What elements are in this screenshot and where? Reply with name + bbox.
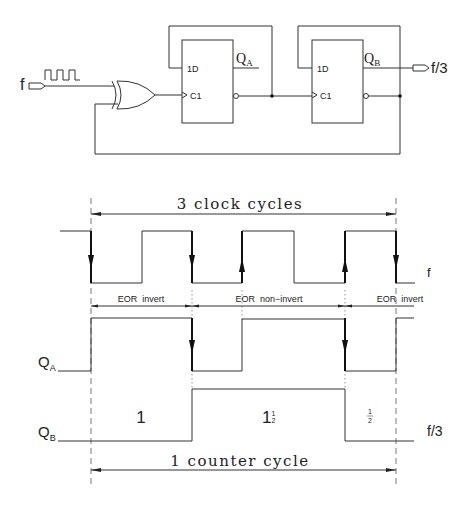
flipflop-b: 1D C1 QB [312, 40, 380, 123]
rising-edge-arrow-icon [239, 258, 245, 272]
clock-waveform-icon [45, 70, 80, 80]
inverted-output-icon [364, 94, 369, 99]
signal-qa: QA [38, 318, 414, 373]
circuit-schematic: f 1D C1 QA 1D [20, 26, 448, 154]
svg-text:112: 112 [262, 408, 275, 427]
inverted-output-icon [234, 94, 239, 99]
falling-edge-arrow-icon [342, 340, 348, 354]
input-port-icon [29, 83, 45, 89]
signal-qb: QB f/3 1 112 1 2 [38, 389, 443, 443]
three-clock-cycles-label: 3 clock cycles [177, 195, 303, 213]
svg-text:2: 2 [368, 417, 372, 424]
input-label: f [20, 76, 25, 93]
eor-phases: EOR invert EOR non−invert EOR invert [91, 294, 424, 308]
svg-text:1: 1 [136, 408, 145, 427]
signal-f: f [60, 231, 431, 283]
svg-text:QB: QB [38, 423, 56, 443]
output-label: f/3 [431, 59, 448, 76]
timing-diagram: 3 clock cycles f EOR invert EOR non−inve… [38, 195, 443, 485]
svg-text:1: 1 [368, 408, 372, 415]
junction-dot [398, 94, 402, 98]
svg-text:1D: 1D [187, 64, 199, 74]
svg-text:C1: C1 [320, 91, 332, 101]
flipflop-a: 1D C1 QA [182, 40, 259, 123]
svg-text:EOR invert: EOR invert [377, 294, 424, 304]
falling-edge-arrow-icon [88, 255, 94, 269]
svg-text:f: f [427, 265, 431, 280]
svg-text:EOR non−invert: EOR non−invert [236, 294, 303, 304]
rising-edge-arrow-icon [342, 258, 348, 272]
falling-edge-arrow-icon [189, 340, 195, 354]
junction-dot [270, 94, 274, 98]
svg-text:f/3: f/3 [427, 423, 443, 439]
svg-text:QB: QB [364, 51, 380, 68]
svg-text:C1: C1 [190, 91, 202, 101]
svg-text:EOR invert: EOR invert [118, 294, 165, 304]
xor-gate-icon [112, 81, 155, 109]
svg-text:QA: QA [236, 51, 253, 68]
divide-by-three-diagram: f 1D C1 QA 1D [0, 0, 474, 510]
output-port-icon [413, 65, 429, 71]
svg-text:1D: 1D [317, 64, 329, 74]
falling-edge-arrow-icon [393, 255, 399, 269]
svg-text:QA: QA [38, 353, 56, 373]
counter-cycle-label: 1 counter cycle [170, 452, 309, 470]
falling-edge-arrow-icon [189, 255, 195, 269]
